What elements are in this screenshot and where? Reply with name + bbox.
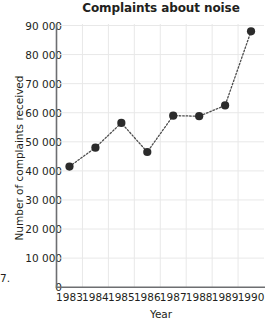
data-point-marker: 1986: 46500 <box>143 148 151 156</box>
data-point-marker: 1984: 48000 <box>91 144 99 152</box>
data-point-marker: 1990: 88000 <box>247 27 255 35</box>
plot-area: 1983: 415001984: 480001985: 565001986: 4… <box>0 0 267 328</box>
data-point-marker: 1985: 56500 <box>117 119 125 127</box>
data-point-marker: 1983: 41500 <box>65 162 73 170</box>
left-edge-text-fragment: 7. <box>0 272 10 284</box>
data-point-marker: 1989: 62500 <box>221 101 229 109</box>
noise-complaints-line-chart: Complaints about noise Number of complai… <box>0 0 267 328</box>
data-point-marker: 1987: 59000 <box>169 112 177 120</box>
grid-lines <box>57 24 265 287</box>
data-point-marker: 1988: 58800 <box>195 112 203 120</box>
